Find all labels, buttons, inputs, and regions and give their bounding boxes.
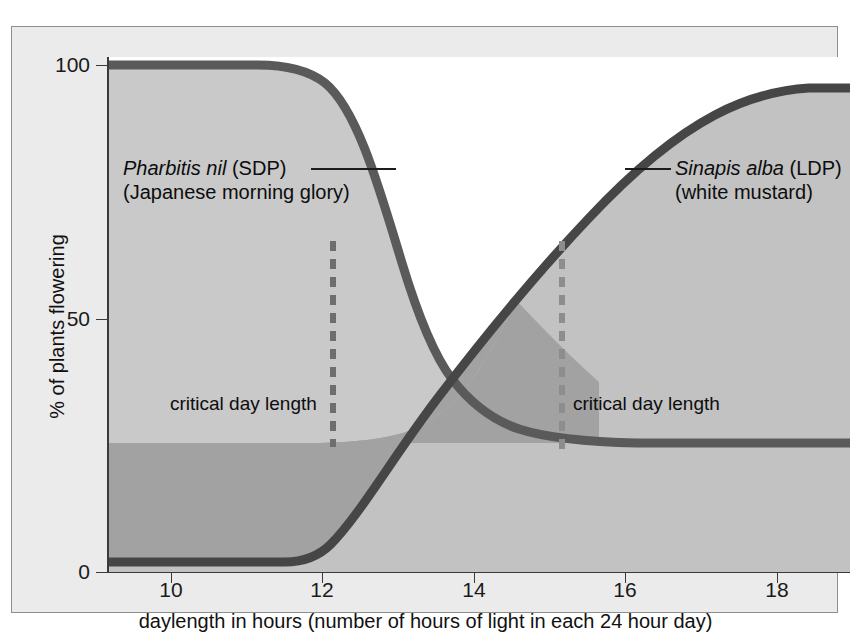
y-axis-label: % of plants flowering (46, 87, 69, 567)
x-tick-label-16: 16 (595, 578, 655, 602)
plot-area: Pharbitis nil (SDP) (Japanese morning gl… (107, 57, 850, 573)
chart-panel: Pharbitis nil (SDP) (Japanese morning gl… (11, 26, 838, 613)
annotation-ldp-species: Sinapis alba (675, 157, 784, 179)
annotation-ldp-abbrev: (LDP) (784, 157, 842, 179)
annotation-ldp: Sinapis alba (LDP) (white mustard) (675, 157, 842, 204)
annotation-sdp-species: Pharbitis nil (123, 157, 226, 179)
x-tick-label-14: 14 (444, 578, 504, 602)
x-tick-label-12: 12 (292, 578, 352, 602)
ldp-lower-right-fill (599, 443, 850, 573)
annotation-ldp-line2: (white mustard) (675, 181, 842, 205)
critical-day-length-label-right: critical day length (573, 393, 720, 415)
figure-root: Pharbitis nil (SDP) (Japanese morning gl… (0, 0, 868, 638)
y-tick-label-100: 100 (30, 53, 90, 77)
chart-svg (107, 57, 850, 573)
annotation-sdp-line2: (Japanese morning glory) (123, 181, 350, 205)
y-tick-mark-0 (96, 572, 107, 573)
x-tick-label-18: 18 (747, 578, 807, 602)
annotation-sdp: Pharbitis nil (SDP) (Japanese morning gl… (123, 157, 350, 204)
x-axis-line (107, 572, 850, 573)
x-tick-label-10: 10 (141, 578, 201, 602)
y-axis-line (107, 57, 109, 573)
y-tick-mark-100 (96, 65, 107, 66)
annotation-sdp-line1: Pharbitis nil (SDP) (123, 157, 350, 181)
x-axis-label: daylength in hours (number of hours of l… (12, 610, 839, 633)
annotation-sdp-abbrev: (SDP) (226, 157, 286, 179)
y-tick-mark-50 (96, 319, 107, 320)
annotation-ldp-line1: Sinapis alba (LDP) (675, 157, 842, 181)
critical-day-length-label-left: critical day length (170, 393, 317, 415)
